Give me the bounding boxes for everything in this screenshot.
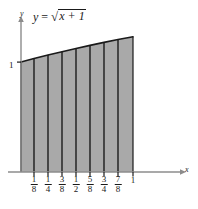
fraction: 18 <box>31 175 38 195</box>
fraction: 38 <box>59 175 66 195</box>
fraction-denominator: 2 <box>73 185 80 194</box>
y-axis-label: y <box>20 10 24 18</box>
fraction-numerator: 5 <box>87 175 94 184</box>
fraction: 34 <box>101 175 108 195</box>
fraction: 14 <box>45 175 52 195</box>
fraction-numerator: 1 <box>31 175 38 184</box>
fraction: 58 <box>87 175 94 195</box>
y-axis-tick-label: 1 <box>9 61 14 70</box>
x-tick-label: 38 <box>59 175 66 195</box>
x-tick-label: 34 <box>101 175 108 195</box>
radical-sign: √ <box>51 9 58 24</box>
x-axis-label: x <box>185 166 189 174</box>
fraction-denominator: 8 <box>31 185 38 194</box>
fraction-denominator: 4 <box>45 185 52 194</box>
fraction-numerator: 3 <box>59 175 66 184</box>
equation-lhs: y <box>33 10 38 24</box>
x-tick-label: 58 <box>87 175 94 195</box>
radicand: x + 1 <box>58 9 85 22</box>
riemann-sum-figure: y x y=√x + 1 1 181438125834781 <box>0 0 198 209</box>
radical-expression: √x + 1 <box>51 10 86 23</box>
fraction-numerator: 1 <box>73 175 80 184</box>
fraction: 78 <box>115 175 122 195</box>
x-axis-tick-labels: 181438125834781 <box>0 175 198 205</box>
x-tick-label: 14 <box>45 175 52 195</box>
fraction-denominator: 4 <box>101 185 108 194</box>
fraction: 12 <box>73 175 80 195</box>
x-tick-label: 18 <box>31 175 38 195</box>
fraction-numerator: 1 <box>45 175 52 184</box>
fraction-denominator: 8 <box>59 185 66 194</box>
fraction-denominator: 8 <box>115 185 122 194</box>
fraction-numerator: 3 <box>101 175 108 184</box>
equation-label: y=√x + 1 <box>33 10 86 23</box>
whole-number: 1 <box>131 176 136 185</box>
fraction-denominator: 8 <box>87 185 94 194</box>
x-tick-label: 78 <box>115 175 122 195</box>
fraction-numerator: 7 <box>115 175 122 184</box>
x-tick-label: 12 <box>73 175 80 195</box>
equation-relation: = <box>41 10 48 24</box>
x-tick-label: 1 <box>131 175 136 184</box>
